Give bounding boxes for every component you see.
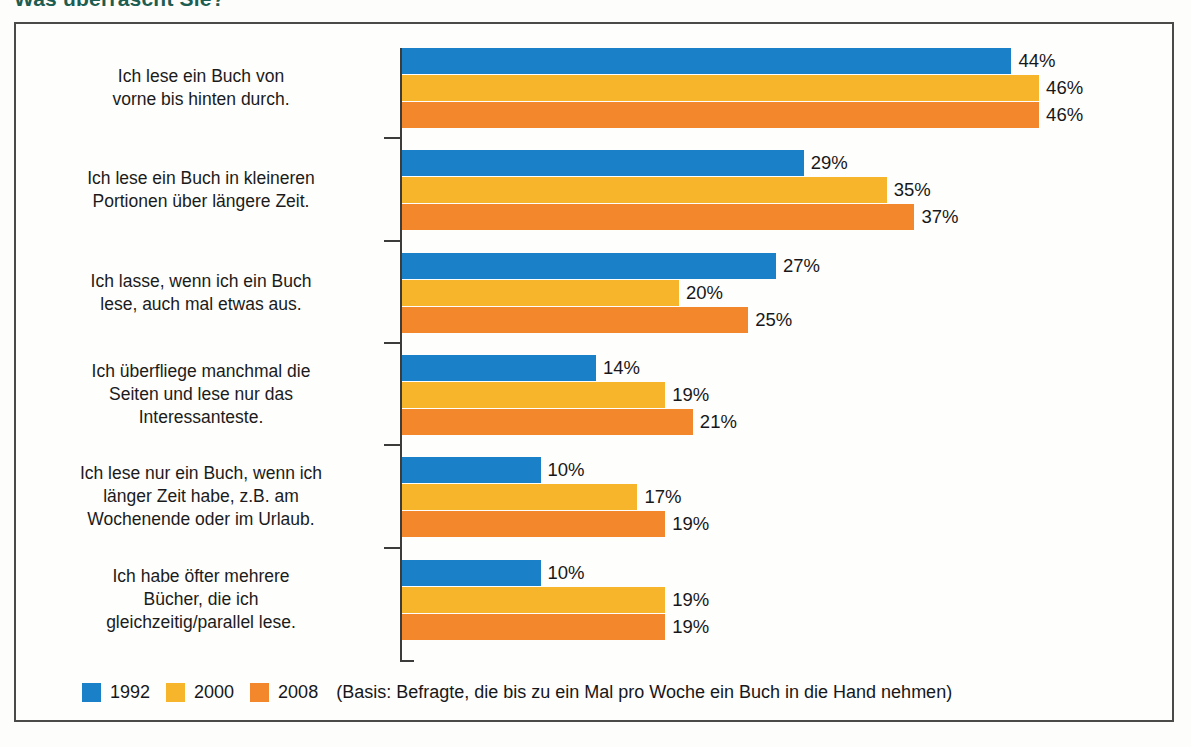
bar-2000 (402, 280, 679, 306)
legend-swatch-2008 (250, 683, 269, 702)
axis-tick (384, 240, 400, 242)
legend-item-2000: 2000 (166, 682, 234, 703)
bar-value-label: 19% (672, 589, 709, 611)
bar-group-item: 10% (402, 560, 585, 586)
category-label: Ich lasse, wenn ich ein Buchlese, auch m… (26, 270, 376, 316)
category-label: Ich überfliege manchmal dieSeiten und le… (26, 360, 376, 429)
bar-group-item: 21% (402, 409, 737, 435)
bar-2000 (402, 382, 665, 408)
bar-1992 (402, 355, 596, 381)
bar-value-label: 46% (1046, 77, 1083, 99)
bar-group-item: 19% (402, 382, 709, 408)
bar-group-item: 19% (402, 511, 709, 537)
bar-group-item: 29% (402, 150, 848, 176)
bar-2000 (402, 177, 887, 203)
legend-label-2008: 2008 (278, 682, 318, 703)
bar-1992 (402, 48, 1011, 74)
bar-value-label: 25% (755, 309, 792, 331)
legend-swatch-2000 (166, 683, 185, 702)
bar-1992 (402, 253, 776, 279)
bar-2000 (402, 484, 637, 510)
bar-2000 (402, 587, 665, 613)
category-label-line: Ich lese nur ein Buch, wenn ich (26, 463, 376, 486)
bar-group-item: 46% (402, 75, 1083, 101)
category-label-line: Ich lese ein Buch von (26, 65, 376, 88)
chart-legend: 1992 2000 2008 (Basis: Befragte, die bis… (82, 682, 952, 703)
bar-group-item: 17% (402, 484, 681, 510)
bar-value-label: 37% (921, 206, 958, 228)
bar-value-label: 10% (548, 459, 585, 481)
category-label-line: Ich lasse, wenn ich ein Buch (26, 270, 376, 293)
bars-layer: 44%46%46%29%35%37%27%20%25%14%19%21%10%1… (402, 24, 1172, 720)
bar-value-label: 29% (811, 152, 848, 174)
category-label-line: Ich lese ein Buch in kleineren (26, 167, 376, 190)
category-label-line: länger Zeit habe, z.B. am (26, 486, 376, 509)
category-label-line: Wochenende oder im Urlaub. (26, 509, 376, 532)
bar-group-item: 10% (402, 457, 585, 483)
legend-label-2000: 2000 (194, 682, 234, 703)
bar-value-label: 21% (700, 411, 737, 433)
bar-value-label: 27% (783, 255, 820, 277)
bar-1992 (402, 560, 541, 586)
category-label: Ich lese ein Buch vonvorne bis hinten du… (26, 65, 376, 111)
page-title: Was überrascht Sie? (14, 0, 225, 11)
bar-2008 (402, 102, 1039, 128)
bar-group-item: 44% (402, 48, 1055, 74)
bar-value-label: 19% (672, 513, 709, 535)
category-label: Ich habe öfter mehrereBücher, die ichgle… (26, 565, 376, 634)
bar-value-label: 19% (672, 384, 709, 406)
axis-tick (384, 137, 400, 139)
chart-plot-area: 44%46%46%29%35%37%27%20%25%14%19%21%10%1… (16, 24, 1172, 720)
bar-group-item: 14% (402, 355, 640, 381)
bar-1992 (402, 150, 804, 176)
legend-item-1992: 1992 (82, 682, 150, 703)
axis-tick (384, 547, 400, 549)
category-label-line: Interessanteste. (26, 406, 376, 429)
legend-label-1992: 1992 (110, 682, 150, 703)
bar-2008 (402, 204, 914, 230)
bar-group-item: 27% (402, 253, 820, 279)
bar-value-label: 20% (686, 282, 723, 304)
bar-2008 (402, 409, 693, 435)
category-label-line: Portionen über längere Zeit. (26, 190, 376, 213)
bar-value-label: 46% (1046, 104, 1083, 126)
category-label: Ich lese nur ein Buch, wenn ichlänger Ze… (26, 463, 376, 532)
bar-value-label: 19% (672, 616, 709, 638)
bar-2008 (402, 511, 665, 537)
bar-value-label: 14% (603, 357, 640, 379)
bar-group-item: 46% (402, 102, 1083, 128)
bar-group-item: 19% (402, 587, 709, 613)
legend-swatch-1992 (82, 683, 101, 702)
category-label-line: gleichzeitig/parallel lese. (26, 611, 376, 634)
bar-group-item: 20% (402, 280, 723, 306)
bar-group-item: 35% (402, 177, 931, 203)
bar-value-label: 17% (644, 486, 681, 508)
chart-panel: 44%46%46%29%35%37%27%20%25%14%19%21%10%1… (14, 22, 1174, 722)
bar-2000 (402, 75, 1039, 101)
category-label-line: Seiten und lese nur das (26, 383, 376, 406)
legend-item-2008: 2008 (250, 682, 318, 703)
bar-group-item: 19% (402, 614, 709, 640)
bar-value-label: 10% (548, 562, 585, 584)
category-label-line: Ich überfliege manchmal die (26, 360, 376, 383)
bar-2008 (402, 307, 748, 333)
category-label-line: vorne bis hinten durch. (26, 88, 376, 111)
category-label-line: lese, auch mal etwas aus. (26, 293, 376, 316)
bar-value-label: 35% (894, 179, 931, 201)
bar-1992 (402, 457, 541, 483)
bar-group-item: 37% (402, 204, 958, 230)
bar-value-label: 44% (1018, 50, 1055, 72)
legend-basis-note: (Basis: Befragte, die bis zu ein Mal pro… (336, 682, 952, 703)
axis-tick (384, 342, 400, 344)
category-label-line: Bücher, die ich (26, 588, 376, 611)
bar-2008 (402, 614, 665, 640)
category-label: Ich lese ein Buch in kleinerenPortionen … (26, 167, 376, 213)
bar-group-item: 25% (402, 307, 792, 333)
axis-tick (384, 444, 400, 446)
category-label-line: Ich habe öfter mehrere (26, 565, 376, 588)
